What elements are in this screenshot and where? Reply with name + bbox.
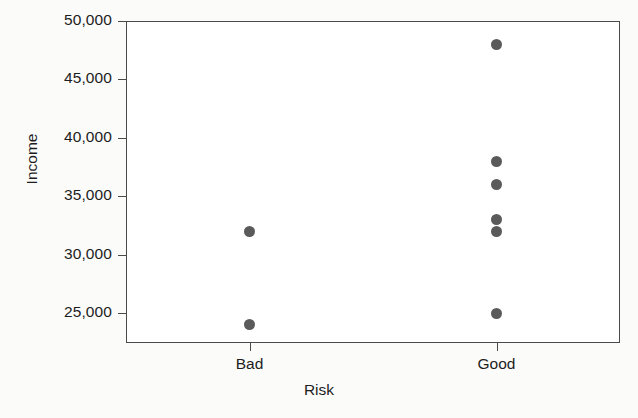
x-axis-tick-label: Good	[437, 355, 557, 373]
y-axis-tick-label: 30,000	[2, 245, 112, 263]
data-point	[491, 39, 502, 50]
plot-area	[126, 21, 620, 343]
y-axis-tick	[118, 255, 126, 256]
y-axis-tick	[118, 313, 126, 314]
y-axis-tick-label: 25,000	[2, 303, 112, 321]
y-axis-tick-label: 35,000	[2, 186, 112, 204]
y-axis-tick	[118, 196, 126, 197]
y-axis-tick-label: 40,000	[2, 128, 112, 146]
data-point	[244, 226, 255, 237]
x-axis-tick	[497, 343, 498, 351]
y-axis-labels: 50,00045,00040,00035,00030,00025,000	[0, 0, 112, 418]
data-point	[491, 156, 502, 167]
scatter-plot-figure: 50,00045,00040,00035,00030,00025,000 Inc…	[0, 0, 638, 418]
x-axis-title: Risk	[0, 381, 638, 399]
x-axis-tick	[250, 343, 251, 351]
y-axis-tick	[118, 21, 126, 22]
y-axis-tick-label: 50,000	[2, 11, 112, 29]
y-axis-tick-label: 45,000	[2, 69, 112, 87]
data-point	[491, 179, 502, 190]
y-axis-title: Income	[23, 99, 41, 219]
x-axis-tick-label: Bad	[190, 355, 310, 373]
y-axis-tick	[118, 138, 126, 139]
data-point	[491, 226, 502, 237]
data-point	[491, 214, 502, 225]
data-point	[491, 308, 502, 319]
y-axis-tick	[118, 79, 126, 80]
